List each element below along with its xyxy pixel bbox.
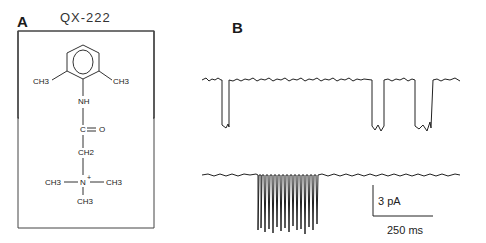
figure-graphics bbox=[0, 0, 486, 243]
scale-time-label: 250 ms bbox=[387, 224, 423, 236]
n-methyl-left: CH3 bbox=[45, 178, 61, 187]
n-methyl-right: CH3 bbox=[106, 178, 122, 187]
trace-top bbox=[202, 78, 460, 131]
ring-methyl-left: CH3 bbox=[33, 77, 49, 86]
methylene: CH2 bbox=[78, 148, 94, 157]
nitrogen-charge: + bbox=[87, 174, 91, 181]
ring-methyl-right: CH3 bbox=[113, 77, 129, 86]
panel-b-label: B bbox=[232, 19, 243, 36]
quaternary-nitrogen: N bbox=[80, 178, 86, 187]
n-methyl-bottom: CH3 bbox=[77, 197, 93, 206]
carbonyl-c: C bbox=[80, 125, 86, 134]
scale-current-label: 3 pA bbox=[378, 195, 401, 207]
amide-nh: NH bbox=[78, 97, 90, 106]
carbonyl-o: O bbox=[99, 125, 105, 134]
